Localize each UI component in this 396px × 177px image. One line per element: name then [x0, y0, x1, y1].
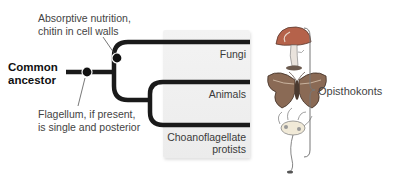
fungi-trait-dot: [112, 53, 122, 63]
taxon-label-choanoflagellates: Choanoflagellate protists: [167, 131, 246, 155]
choanoflagellate-branch: [150, 100, 250, 125]
opisthokont-trait-dot: [82, 67, 92, 77]
opisthokont-phylogeny-diagram: Common ancestor Absorptive nutrition, ch…: [0, 0, 396, 177]
opisthokont-trait-line1: Flagellum, if present,: [38, 108, 140, 121]
common-ancestor-line1: Common: [8, 61, 58, 74]
choanoflagellate-line2: protists: [167, 143, 246, 155]
fungi-trait-annotation: Absorptive nutrition, chitin in cell wal…: [38, 12, 131, 37]
common-ancestor-label: Common ancestor: [8, 61, 58, 87]
common-ancestor-line2: ancestor: [8, 74, 58, 87]
taxon-label-animals: Animals: [209, 88, 246, 100]
taxon-label-fungi: Fungi: [220, 48, 246, 60]
choanoflagellate-line1: Choanoflagellate: [167, 131, 246, 143]
fungi-trait-leader: [103, 37, 114, 53]
fungi-trait-line1: Absorptive nutrition,: [38, 12, 131, 25]
fungi-trait-line2: chitin in cell walls: [38, 25, 131, 38]
choanoflagellate-icon: [278, 108, 312, 174]
opisthokont-trait-annotation: Flagellum, if present, is single and pos…: [38, 108, 140, 133]
holozoa-branch: [114, 72, 150, 100]
mushroom-icon: [276, 27, 311, 71]
group-label-opisthokonts: Opisthokonts: [318, 85, 382, 97]
opisthokont-trait-line2: is single and posterior: [38, 121, 140, 134]
opisthokont-trait-leader: [78, 78, 85, 106]
